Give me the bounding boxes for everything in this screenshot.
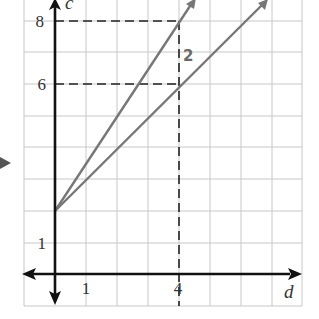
x-axis-right-arrow-icon (288, 268, 302, 280)
x-axis-label: d (284, 281, 294, 302)
pointer-arrow-icon (0, 157, 11, 169)
line-chart: 8 6 1 1 4 c d 2 (0, 0, 319, 319)
axes (22, 0, 302, 305)
x-tick-label-4: 4 (174, 279, 183, 298)
steeper-line (55, 3, 192, 211)
tick-labels: 8 6 1 1 4 (36, 12, 183, 298)
steeper-line-arrow-icon (186, 0, 196, 9)
x-tick-label-1: 1 (82, 279, 91, 298)
y-tick-label-1: 1 (38, 234, 47, 253)
y-tick-label-8: 8 (36, 12, 45, 31)
y-axis-label: c (65, 0, 74, 13)
y-tick-label-6: 6 (38, 75, 47, 94)
difference-label: 2 (183, 47, 193, 65)
